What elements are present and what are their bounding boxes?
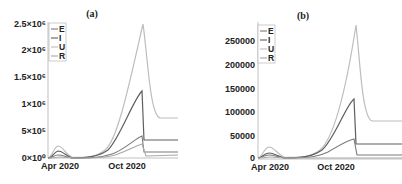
figure: (a) 0×10⁰ 5×10⁵ 1×10⁶ 1.5×10⁶ 2×10⁶ 2.5×… [0,0,402,184]
panel-a-legend: E I U R [49,23,66,61]
svg-text:5×10⁵: 5×10⁵ [22,126,47,136]
panel-b-line-U [258,25,402,158]
svg-text:50000: 50000 [230,131,255,141]
panel-a-y-ticks: 0×10⁰ 5×10⁵ 1×10⁶ 1.5×10⁶ 2×10⁶ 2.5×10⁶ [14,19,46,163]
panel-a-x-tick-oct: Oct 2020 [108,161,146,171]
legend-b-R: R [268,53,274,63]
svg-text:1.5×10⁶: 1.5×10⁶ [14,72,46,82]
panel-a-line-U [48,24,178,158]
panel-a-x-tick-apr: Apr 2020 [41,161,79,171]
panel-b-line-R [258,157,402,158]
panel-b-line-E [258,139,402,158]
svg-text:100000: 100000 [225,107,255,117]
svg-text:2×10⁶: 2×10⁶ [22,45,46,55]
panel-a-title: (a) [86,8,98,20]
panel-b-title: (b) [297,10,309,22]
panel-a-line-E [48,136,178,158]
panel-b-y-ticks: 0 50000 100000 150000 200000 250000 [225,36,255,163]
panel-a-line-I [48,91,178,158]
panel-b-legend: E I U R [258,25,275,63]
panel-b-x-tick-apr: Apr 2020 [251,162,289,172]
panel-a: (a) 0×10⁰ 5×10⁵ 1×10⁶ 1.5×10⁶ 2×10⁶ 2.5×… [14,8,178,171]
legend-a-R: R [59,51,65,61]
svg-text:2.5×10⁶: 2.5×10⁶ [14,19,46,29]
svg-text:200000: 200000 [225,60,255,70]
panel-b: (b) 0 50000 100000 150000 200000 250000 … [225,10,402,172]
svg-text:1×10⁶: 1×10⁶ [22,99,46,109]
svg-text:250000: 250000 [225,36,255,46]
svg-text:150000: 150000 [225,84,255,94]
panel-b-x-tick-oct: Oct 2020 [317,162,355,172]
panel-b-line-I [258,99,402,158]
